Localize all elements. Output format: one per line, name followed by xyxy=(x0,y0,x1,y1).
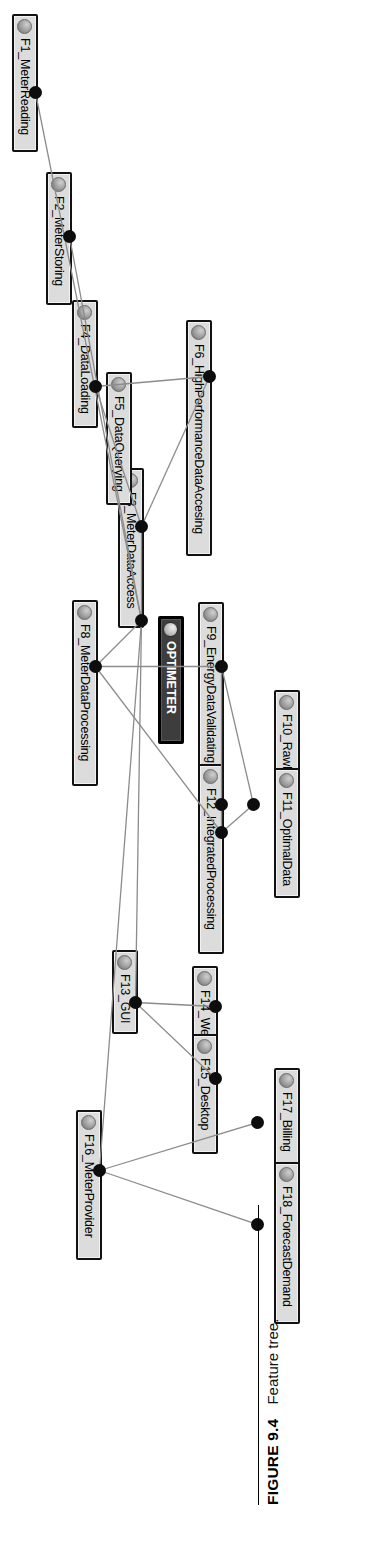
figure-caption: FIGURE 9.4 Feature tree. xyxy=(258,1205,282,1505)
connector-dot[interactable] xyxy=(129,996,142,1009)
connector-dot[interactable] xyxy=(135,614,148,627)
edge-layer xyxy=(0,0,330,1340)
connector-dot[interactable] xyxy=(215,660,228,673)
connector-dot[interactable] xyxy=(209,1072,222,1085)
connector-dot[interactable] xyxy=(135,520,148,533)
caption-divider xyxy=(258,1205,259,1505)
connector-dot[interactable] xyxy=(251,1116,264,1129)
connector-dot[interactable] xyxy=(89,660,102,673)
connector-dot[interactable] xyxy=(247,798,260,811)
connector-dot[interactable] xyxy=(93,1164,106,1177)
connector-dot[interactable] xyxy=(215,826,228,839)
connector-dot[interactable] xyxy=(209,1000,222,1013)
connector-dot[interactable] xyxy=(63,230,76,243)
connector-dot[interactable] xyxy=(29,86,42,99)
figure-caption-text: Feature tree. xyxy=(264,1319,281,1405)
connector-dot[interactable] xyxy=(215,798,228,811)
figure-number: FIGURE 9.4 xyxy=(264,1419,282,1505)
connector-dot[interactable] xyxy=(89,380,102,393)
feature-tree-diagram: OPTIMETERF1_MeterReadingF2_MeterStoringF… xyxy=(0,0,330,1340)
connector-dot[interactable] xyxy=(203,370,216,383)
